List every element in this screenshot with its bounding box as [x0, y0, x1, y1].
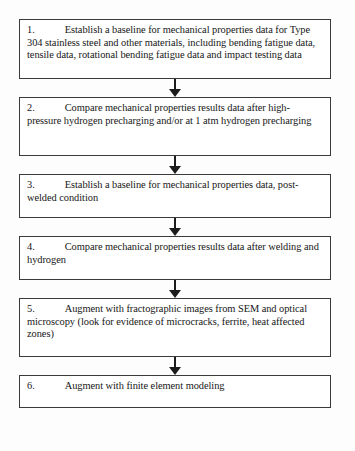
node-text-1: Establish a baseline for mechanical prop… [27, 24, 315, 60]
node-number-5: 5. [27, 303, 35, 314]
flowchart-node-6: 6.Augment with finite element modeling [19, 375, 331, 408]
connector-arrow-5-to-6 [19, 357, 331, 375]
node-number-2: 2. [27, 102, 35, 113]
node-text-2: Compare mechanical properties results da… [27, 102, 311, 126]
node-number-6: 6. [27, 380, 35, 391]
node-number-3: 3. [27, 179, 35, 190]
node-text-4: Compare mechanical properties results da… [27, 241, 319, 265]
flowchart-node-5: 5.Augment with fractographic images from… [19, 298, 331, 357]
node-text-3: Establish a baseline for mechanical prop… [27, 179, 298, 203]
arrow-head-icon [169, 228, 181, 236]
arrow-head-icon [169, 89, 181, 97]
flowchart-container: 1.Establish a baseline for mechanical pr… [19, 19, 331, 408]
arrow-head-icon [169, 367, 181, 375]
node-number-4: 4. [27, 241, 35, 252]
flowchart-node-3: 3.Establish a baseline for mechanical pr… [19, 174, 331, 218]
node-text-6: Augment with finite element modeling [65, 380, 225, 391]
flowchart-page: 1.Establish a baseline for mechanical pr… [0, 0, 355, 451]
arrow-head-icon [169, 166, 181, 174]
connector-arrow-4-to-5 [19, 280, 331, 298]
node-number-1: 1. [27, 24, 35, 35]
connector-arrow-2-to-3 [19, 156, 331, 174]
connector-arrow-3-to-4 [19, 218, 331, 236]
connector-arrow-1-to-2 [19, 79, 331, 97]
flowchart-node-2: 2.Compare mechanical properties results … [19, 97, 331, 156]
flowchart-node-4: 4.Compare mechanical properties results … [19, 236, 331, 280]
node-text-5: Augment with fractographic images from S… [27, 303, 307, 339]
arrow-head-icon [169, 290, 181, 298]
flowchart-node-1: 1.Establish a baseline for mechanical pr… [19, 19, 331, 79]
